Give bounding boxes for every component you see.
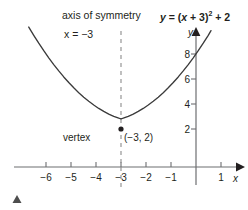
y-tick-label: 6 bbox=[176, 74, 190, 85]
x-tick-label: −1 bbox=[160, 172, 182, 183]
y-tick-label: 8 bbox=[176, 49, 190, 60]
axis-of-symmetry-equation: x = −3 bbox=[64, 29, 93, 40]
x-axis-ticks bbox=[46, 162, 221, 167]
x-axis-label: x bbox=[233, 174, 238, 184]
triangle-marker-icon bbox=[13, 195, 22, 203]
x-axis-arrow-icon bbox=[236, 162, 245, 171]
x-tick-label: −3 bbox=[110, 172, 132, 183]
parabola-graph-figure: axis of symmetry x = −3 y = (x + 3)2 + 2… bbox=[0, 0, 248, 210]
y-tick-label: 4 bbox=[176, 99, 190, 110]
y-axis-ticks bbox=[191, 54, 196, 129]
vertex-label: vertex bbox=[63, 133, 90, 143]
axis-of-symmetry-title: axis of symmetry bbox=[62, 10, 141, 21]
x-tick-label: −5 bbox=[60, 172, 82, 183]
y-axis-label: y bbox=[188, 28, 193, 38]
parabola-equation-label: y = (x + 3)2 + 2 bbox=[160, 10, 230, 22]
x-tick-label: −2 bbox=[135, 172, 157, 183]
x-tick-label: 1 bbox=[210, 172, 232, 183]
vertex-point-marker bbox=[118, 126, 123, 131]
x-tick-label: −6 bbox=[35, 172, 57, 183]
vertex-coordinates-label: (−3, 2) bbox=[124, 133, 153, 143]
x-tick-label: −4 bbox=[85, 172, 107, 183]
y-tick-label: 2 bbox=[176, 124, 190, 135]
